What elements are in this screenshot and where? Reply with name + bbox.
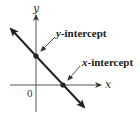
x-intercept-label: x-intercept	[81, 56, 133, 68]
x-axis-label: x	[105, 78, 112, 91]
x-intercept-pointer	[68, 66, 80, 80]
y-axis-label: y	[32, 2, 40, 15]
y-intercept-point	[33, 53, 38, 58]
y-intercept-pointer	[41, 37, 55, 51]
graph-line	[11, 29, 36, 56]
origin-label: 0	[27, 87, 33, 99]
coordinate-graph: y x 0 y-intercept x-intercept	[0, 0, 140, 122]
graph-line-extension	[36, 56, 84, 107]
x-intercept-point	[60, 82, 65, 87]
y-intercept-label: y-intercept	[54, 27, 107, 39]
